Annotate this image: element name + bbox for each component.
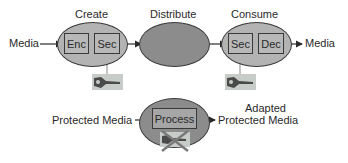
create-title: Create <box>75 8 108 20</box>
output-media-label: Media <box>305 37 335 49</box>
key-icon <box>92 74 123 90</box>
key-icon <box>225 74 256 90</box>
consume-sec-box: Sec <box>228 33 253 54</box>
process-box: Process <box>152 108 197 129</box>
dec-box: Dec <box>258 33 284 54</box>
enc-box: Enc <box>64 33 89 54</box>
consume-title: Consume <box>231 8 278 20</box>
adapted-label-line2: Protected Media <box>218 114 298 126</box>
protected-media-label: Protected Media <box>52 114 132 126</box>
distribute-title: Distribute <box>150 8 196 20</box>
adapted-label-line1: Adapted <box>245 102 286 114</box>
crossed-key-icon <box>160 130 190 152</box>
input-media-label: Media <box>9 37 39 49</box>
distribute-stage-ellipse <box>139 22 210 67</box>
create-sec-box: Sec <box>94 33 120 54</box>
